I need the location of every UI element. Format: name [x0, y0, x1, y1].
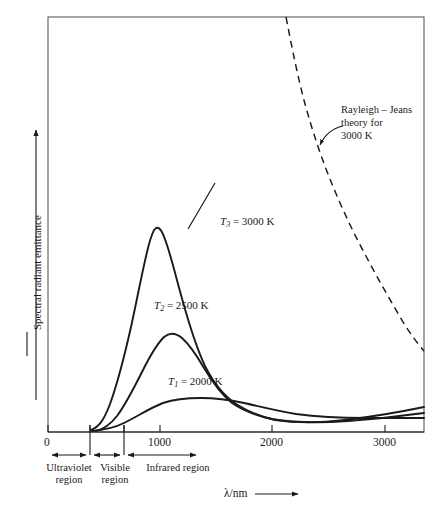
region-label-ultraviolet-line2: region [38, 474, 100, 486]
curve-rayleigh-jeans [286, 17, 424, 351]
rayleigh-jeans-line-1: Rayleigh – Jeans [341, 103, 433, 116]
region-label-visible: Visible region [95, 462, 135, 486]
region-label-infrared-line1: Infrared region [137, 462, 219, 474]
region-label-ultraviolet: Ultraviolet region [38, 462, 100, 486]
curve-label-2500k-value: = 2500 K [167, 299, 209, 311]
rayleigh-jeans-line-3: 3000 K [341, 129, 433, 142]
curve-label-2000k-value: = 2000 K [181, 375, 223, 387]
curve-label-3000k-value: = 3000 K [233, 215, 275, 227]
x-tick-label-0: 0 [44, 436, 50, 449]
region-label-visible-line1: Visible [95, 462, 135, 474]
curve-label-3000k: T3 = 3000 K [220, 215, 275, 230]
x-tick-label-2000: 2000 [260, 436, 283, 449]
curve-label-2000k: T1 = 2000 K [168, 375, 223, 390]
x-tick-label-3000: 3000 [373, 436, 396, 449]
curve-3000k [91, 228, 424, 430]
rayleigh-jeans-arrow [320, 126, 343, 145]
y-axis-title: Spectral radiant emittance [31, 215, 43, 330]
region-label-visible-line2: region [95, 474, 135, 486]
rayleigh-jeans-line-2: theory for [341, 116, 433, 129]
curve-label-2500k: T2 = 2500 K [154, 299, 209, 314]
region-label-infrared: Infrared region [137, 462, 219, 474]
leader-line-3000k [188, 183, 215, 229]
x-axis-title: λ/nm [224, 487, 247, 500]
x-tick-label-1000: 1000 [148, 436, 171, 449]
rayleigh-jeans-annotation: Rayleigh – Jeans theory for 3000 K [341, 103, 433, 142]
region-label-ultraviolet-line1: Ultraviolet [38, 462, 100, 474]
blackbody-radiation-figure: Spectral radiant emittance 0 1000 2000 3… [0, 0, 440, 515]
